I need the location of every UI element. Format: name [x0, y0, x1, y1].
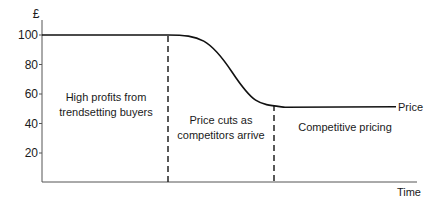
phase-label: Price cuts ascompetitors arrive	[177, 114, 264, 141]
phase-label-line: High profits from	[66, 91, 147, 103]
price-skimming-chart: £ Time 10080604020 High profits fromtren…	[0, 0, 444, 204]
phase-label: Competitive pricing	[298, 121, 392, 133]
y-axis-unit-label: £	[33, 7, 40, 21]
price-series-label: Price	[398, 101, 423, 113]
phase-label-line: competitors arrive	[177, 129, 264, 141]
phase-labels: High profits fromtrendsetting buyersPric…	[59, 91, 392, 141]
phase-label: High profits fromtrendsetting buyers	[59, 91, 153, 118]
y-tick-label: 80	[25, 58, 39, 72]
y-tick-label: 100	[18, 28, 38, 42]
x-axis-label: Time	[397, 186, 421, 198]
phase-label-line: Competitive pricing	[298, 121, 392, 133]
y-tick-label: 40	[25, 117, 39, 131]
phase-label-line: Price cuts as	[190, 114, 253, 126]
y-ticks: 10080604020	[18, 28, 42, 160]
phase-label-line: trendsetting buyers	[59, 106, 153, 118]
y-tick-label: 20	[25, 146, 39, 160]
y-tick-label: 60	[25, 87, 39, 101]
